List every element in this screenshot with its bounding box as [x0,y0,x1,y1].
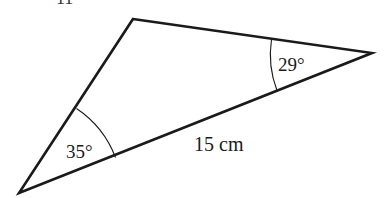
triangle-outline [19,19,372,193]
angle-arc-right [270,40,277,91]
angle-label-bottom-left: 35° [66,141,93,162]
triangle-diagram: 35° 29° 15 cm [0,0,391,198]
angle-label-right: 29° [278,54,305,75]
side-label-base: 15 cm [194,133,244,155]
